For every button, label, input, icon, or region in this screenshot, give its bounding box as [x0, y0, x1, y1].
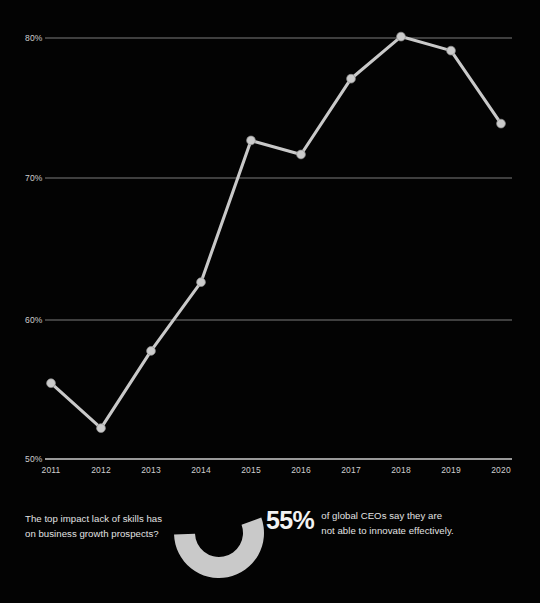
infographic-canvas: 80% 70% 60% 50% 2011 2012 2013 2014 2015…: [0, 0, 540, 603]
y-axis-ticks: 80% 70% 60% 50%: [25, 33, 43, 464]
x-tick-label-2012: 2012: [91, 465, 111, 475]
series-markers: [47, 32, 506, 432]
x-tick-label-2014: 2014: [191, 465, 211, 475]
series-marker-2014: [197, 278, 206, 287]
donut-chart: [172, 481, 266, 585]
y-tick-label-80: 80%: [25, 33, 43, 43]
series-marker-2017: [347, 74, 356, 83]
callout-question-line-2: on business growth prospects?: [25, 527, 190, 542]
stat-caption-line-2: not able to innovate effectively.: [321, 524, 454, 539]
series-marker-2015: [247, 136, 256, 145]
donut-arc-segment: [174, 518, 264, 578]
callout-question: The top impact lack of skills has on bus…: [25, 512, 190, 541]
stat-callout: 55% of global CEOs say they are not able…: [266, 508, 454, 538]
series-marker-2012: [97, 424, 106, 433]
y-tick-label-50: 50%: [25, 454, 43, 464]
series-marker-2018: [397, 32, 406, 41]
donut-chart-svg: [172, 481, 266, 585]
x-tick-label-2015: 2015: [241, 465, 261, 475]
bottom-callout-band: [0, 480, 540, 603]
x-tick-label-2020: 2020: [491, 465, 511, 475]
series-marker-2016: [297, 150, 306, 159]
series-marker-2019: [447, 46, 456, 55]
series-marker-2013: [147, 347, 156, 356]
series-marker-2020: [497, 119, 506, 128]
stat-caption: of global CEOs say they are not able to …: [321, 508, 454, 538]
x-tick-label-2019: 2019: [441, 465, 461, 475]
x-tick-label-2013: 2013: [141, 465, 161, 475]
callout-question-line-1: The top impact lack of skills has: [25, 512, 190, 527]
y-tick-label-60: 60%: [25, 315, 43, 325]
x-tick-label-2016: 2016: [291, 465, 311, 475]
x-tick-label-2011: 2011: [41, 465, 60, 475]
x-tick-label-2017: 2017: [341, 465, 361, 475]
y-tick-label-70: 70%: [25, 173, 43, 183]
ceo-confidence-line-chart: 80% 70% 60% 50% 2011 2012 2013 2014 2015…: [0, 0, 540, 480]
line-chart-panel: 80% 70% 60% 50% 2011 2012 2013 2014 2015…: [0, 0, 540, 480]
gridlines: [45, 38, 512, 320]
x-axis-ticks: 2011 2012 2013 2014 2015 2016 2017 2018 …: [41, 465, 510, 475]
x-tick-label-2018: 2018: [391, 465, 411, 475]
stat-caption-line-1: of global CEOs say they are: [321, 509, 454, 524]
series-line-ceo-confidence: [51, 37, 501, 429]
series-marker-2011: [47, 379, 56, 388]
stat-value: 55%: [266, 508, 314, 533]
